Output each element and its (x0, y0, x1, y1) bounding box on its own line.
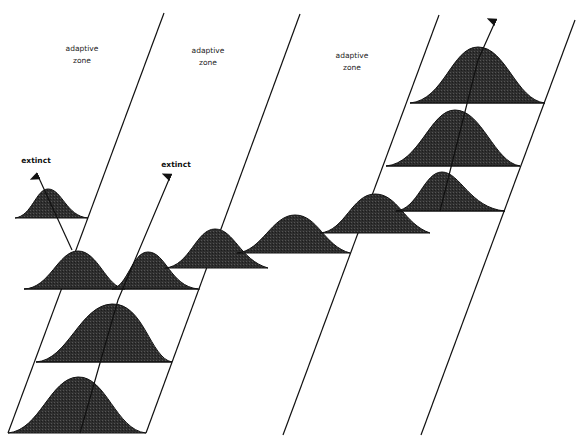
zone-label-2-line1: adaptive (192, 45, 225, 57)
population-curve-extinct (15, 189, 88, 218)
zone-label-2: adaptive zone (192, 45, 225, 69)
zone-label-1: adaptive zone (66, 43, 99, 67)
population-curve-left-1 (8, 377, 146, 433)
population-curve-4 (237, 215, 350, 253)
zone-label-2-line2: zone (192, 57, 225, 69)
population-curve-left-2 (36, 304, 172, 362)
population-curves (8, 47, 545, 433)
population-curve-right-3 (410, 47, 545, 103)
lineage-arrows (38, 22, 495, 433)
zone-label-3: adaptive zone (336, 50, 369, 74)
zone-label-1-line2: zone (66, 55, 99, 67)
zone-boundary-line-1 (8, 13, 164, 433)
population-curve-right-1 (396, 172, 505, 211)
zone-label-3-line2: zone (336, 62, 369, 74)
population-curve-row2-a (24, 251, 125, 289)
zone-label-1-line1: adaptive (66, 43, 99, 55)
extinct-label-1: extinct (21, 156, 50, 165)
extinct-label-2: extinct (161, 160, 190, 169)
zone-label-3-line1: adaptive (336, 50, 369, 62)
